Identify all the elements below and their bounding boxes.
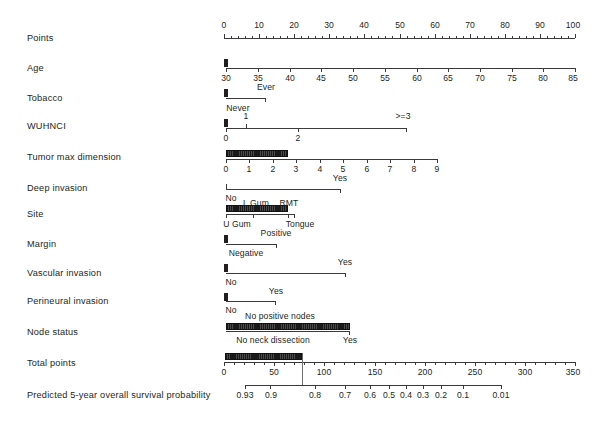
tick-age-70 (480, 68, 481, 72)
tick-label-tumor-3: 3 (294, 164, 299, 174)
tick-label-points-0: 0 (222, 20, 227, 30)
readout-guide-line (302, 353, 303, 385)
tick-label-node-status-yes: Yes (343, 335, 357, 345)
tick-label-points-10: 10 (254, 20, 264, 30)
tick-label-site-ugum: U Gum (223, 219, 251, 229)
marker-perineural-invasion[interactable] (224, 293, 228, 301)
tick-points-minor (238, 36, 239, 39)
row-label-site: Site (27, 209, 44, 219)
tick-total-points-minor (395, 362, 396, 365)
tick-margin-positive (276, 244, 277, 248)
tick-points-minor (568, 36, 569, 39)
marker-margin[interactable] (224, 235, 228, 243)
selection-bar-tumor-max-dimension[interactable] (226, 150, 288, 157)
tick-total-points-minor (314, 362, 315, 365)
marker-age[interactable] (224, 59, 228, 67)
tick-points-minor (336, 36, 337, 39)
tick-points-minor (477, 36, 478, 39)
tick-label-points-50: 50 (395, 20, 405, 30)
tick-points-40 (364, 34, 365, 38)
tick-total-points-minor (545, 362, 546, 365)
tick-age-60 (417, 68, 418, 72)
marker-wuhnci[interactable] (224, 119, 228, 127)
tick-total-points-minor (415, 362, 416, 365)
tick-points-minor (449, 36, 450, 39)
tick-age-30 (226, 68, 227, 72)
tick-total-points-minor (565, 362, 566, 365)
tick-points-60 (435, 34, 436, 38)
tick-points-minor (231, 36, 232, 39)
tick-label-age-30: 30 (221, 73, 231, 83)
tick-survival-01 (463, 385, 464, 389)
tick-survival-001 (501, 385, 502, 389)
tick-points-minor (308, 36, 309, 39)
selection-bar-total-points[interactable] (225, 353, 302, 360)
tick-total-points-minor (294, 362, 295, 365)
tick-points-minor (456, 36, 457, 39)
tick-total-points-minor (244, 362, 245, 365)
tick-total-points-300 (525, 362, 526, 366)
tick-points-minor (266, 36, 267, 39)
tick-label-deep-invasion-no: No (225, 193, 236, 203)
tick-label-tobacco-ever: Ever (257, 82, 275, 92)
tick-points-minor (484, 36, 485, 39)
tick-label-total-points-350: 350 (566, 367, 581, 377)
tick-total-points-minor (405, 362, 406, 365)
tick-label-total-points-300: 300 (518, 367, 533, 377)
tick-label-survival-093: 0.93 (236, 390, 253, 400)
tick-label-tumor-8: 8 (412, 164, 417, 174)
row-label-perineural-invasion: Perineural invasion (27, 296, 109, 306)
tick-label-age-55: 55 (380, 73, 390, 83)
tick-label-total-points-50: 50 (269, 367, 279, 377)
tick-tumor-2 (273, 159, 274, 163)
tick-label-perineural-invasion-yes: Yes (269, 286, 283, 296)
tick-label-tumor-6: 6 (365, 164, 370, 174)
tick-site-lgum (253, 214, 254, 218)
marker-deep-invasion[interactable] (226, 184, 227, 190)
tick-label-survival-03: 0.3 (417, 390, 429, 400)
tick-label-points-30: 30 (324, 20, 334, 30)
tick-tumor-3 (296, 159, 297, 163)
axis-line-node-status (226, 331, 350, 332)
tick-points-minor (245, 36, 246, 39)
row-label-margin: Margin (27, 239, 56, 249)
tick-points-minor (512, 36, 513, 39)
tick-points-minor (371, 36, 372, 39)
tick-points-minor (421, 36, 422, 39)
marker-tobacco[interactable] (224, 89, 228, 97)
tick-label-margin-positive: Positive (261, 228, 292, 238)
marker-vascular-invasion[interactable] (224, 264, 228, 272)
tick-label-survival-01: 0.1 (457, 390, 469, 400)
tick-label-total-points-100: 100 (317, 367, 332, 377)
axis-line-wuhnci (226, 128, 406, 129)
selection-bar-node-status[interactable] (226, 323, 350, 330)
tick-total-points-250 (475, 362, 476, 366)
tick-total-points-minor (515, 362, 516, 365)
tick-label-points-80: 80 (500, 20, 510, 30)
tick-total-points-minor (435, 362, 436, 365)
tick-label-tumor-2: 2 (271, 164, 276, 174)
tick-label-survival-02: 0.2 (435, 390, 447, 400)
tick-tobacco-ever (265, 98, 266, 102)
tick-survival-07 (345, 385, 346, 389)
tick-total-points-minor (365, 362, 366, 365)
tick-survival-03 (423, 385, 424, 389)
tick-points-minor (519, 36, 520, 39)
tick-deep-invasion-yes (340, 189, 341, 193)
tick-points-minor (301, 36, 302, 39)
tick-wuhnci-3plus (406, 128, 407, 132)
tick-total-points-minor (344, 362, 345, 365)
nomogram-figure: Points Age Tobacco WUHNCI Tumor max dime… (0, 0, 610, 424)
tick-tumor-1 (249, 159, 250, 163)
tick-points-minor (252, 36, 253, 39)
tick-total-points-minor (535, 362, 536, 365)
tick-label-total-points-250: 250 (468, 367, 483, 377)
tick-survival-02 (441, 385, 442, 389)
row-label-wuhnci: WUHNCI (27, 121, 66, 131)
tick-tumor-5 (343, 159, 344, 163)
tick-points-minor (357, 36, 358, 39)
tick-label-site-rmt: RMT (280, 198, 299, 208)
tick-label-node-status-no-positive-nodes: No positive nodes (245, 311, 315, 321)
tick-site-rmt (288, 214, 289, 218)
tick-label-tumor-1: 1 (247, 164, 252, 174)
